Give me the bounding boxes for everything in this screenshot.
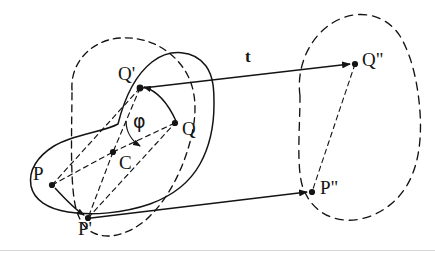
label-Q-prime: Q' bbox=[118, 64, 135, 83]
label-t: t bbox=[245, 48, 251, 65]
translated-chord bbox=[312, 64, 355, 192]
point-dot-P bbox=[49, 182, 55, 188]
point-dot-Q-double-prime bbox=[352, 61, 358, 67]
label-Q: Q bbox=[182, 119, 196, 138]
label-Q-double-prime: Q" bbox=[362, 50, 383, 69]
point-dot-Q bbox=[172, 120, 178, 126]
vector-t-lower bbox=[91, 192, 307, 218]
rotation-arrow-Q-to-Qprime bbox=[144, 87, 176, 121]
point-dot-P-double-prime bbox=[309, 189, 315, 195]
diagram-canvas: P P' P" Q Q' Q" C φ t bbox=[0, 0, 435, 258]
segment-C-Pprime bbox=[88, 152, 113, 218]
point-markers bbox=[49, 61, 358, 221]
diagram-svg bbox=[0, 0, 435, 258]
label-P-double-prime: P" bbox=[320, 178, 338, 197]
translated-body-outline bbox=[299, 14, 421, 220]
segment-P-C bbox=[52, 152, 113, 185]
label-C: C bbox=[119, 153, 132, 172]
label-P-prime: P' bbox=[78, 219, 92, 238]
point-dot-Q-prime bbox=[137, 85, 144, 92]
point-dot-C bbox=[110, 149, 116, 155]
vector-t-upper bbox=[143, 64, 350, 88]
label-P: P bbox=[33, 164, 44, 183]
label-phi: φ bbox=[133, 112, 146, 131]
